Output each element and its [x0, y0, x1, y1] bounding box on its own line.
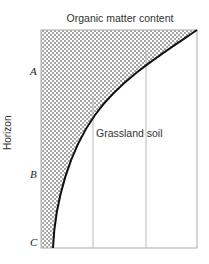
organic-matter-area — [41, 30, 197, 248]
y-axis-label: Horizon — [2, 116, 13, 150]
horizon-c-label: C — [30, 236, 37, 248]
curve-label: Grassland soil — [96, 127, 163, 139]
diagram-title: Organic matter content — [42, 12, 198, 24]
horizon-b-label: B — [30, 168, 37, 180]
horizon-a-label: A — [30, 65, 37, 77]
